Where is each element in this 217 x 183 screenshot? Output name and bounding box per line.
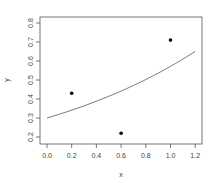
- y-axis-label: y: [3, 78, 11, 82]
- y-axis: 0.20.30.40.50.60.70.8: [27, 18, 40, 142]
- y-tick-label: 0.2: [27, 132, 34, 142]
- data-point: [119, 131, 123, 135]
- x-tick-label: 0.6: [116, 152, 126, 159]
- x-tick-label: 0.4: [92, 152, 102, 159]
- x-tick-label: 1.2: [190, 152, 200, 159]
- data-points: [70, 38, 172, 135]
- fitted-curve: [47, 51, 195, 118]
- y-tick-label: 0.7: [27, 37, 34, 47]
- data-point: [169, 38, 173, 42]
- x-tick-label: 0.0: [42, 152, 52, 159]
- x-axis: 0.00.20.40.60.81.01.2: [42, 144, 200, 159]
- x-tick-label: 0.2: [67, 152, 77, 159]
- x-tick-label: 0.8: [141, 152, 151, 159]
- plot-frame: [40, 17, 202, 144]
- data-point: [70, 92, 74, 96]
- y-tick-label: 0.3: [27, 113, 34, 123]
- scatter-chart: 0.00.20.40.60.81.01.2 0.20.30.40.50.60.7…: [0, 0, 217, 183]
- y-tick-label: 0.5: [27, 75, 34, 85]
- x-axis-label: x: [119, 171, 123, 178]
- y-tick-label: 0.6: [27, 56, 34, 66]
- y-tick-label: 0.4: [27, 94, 34, 104]
- x-tick-label: 1.0: [166, 152, 176, 159]
- y-tick-label: 0.8: [27, 18, 34, 28]
